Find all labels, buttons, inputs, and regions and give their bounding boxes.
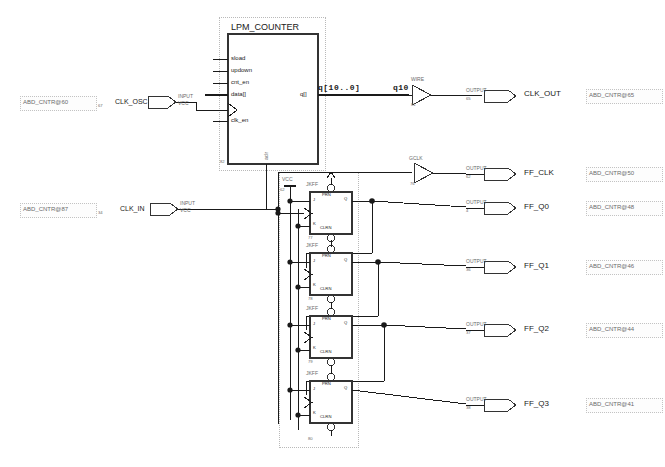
port-default-clk-in: VCC (180, 208, 191, 213)
jkff-pin-q-1: Q (344, 197, 347, 201)
anno-ff-clk: ABD_CNTR@50 (589, 170, 634, 176)
jkff-instance-4: 80 (308, 437, 313, 441)
jkff-instance-1: 77 (308, 236, 313, 240)
counter-pin-sload: sload (231, 55, 245, 61)
instance-clk-osc: 67 (98, 104, 103, 108)
instance-clk-in: 34 (98, 211, 103, 215)
instance-clk-out: 65 (466, 97, 471, 101)
jkff-pin-j-4: J (313, 387, 315, 391)
port-default-clk-osc: VCC (178, 101, 189, 106)
port-type-ff-q0: OUTPUT (466, 200, 487, 205)
anno-ff-q2: ABD_CNTR@44 (589, 326, 634, 332)
counter-block-instance: 82 (220, 160, 225, 164)
jkff-type-2: JKFF (306, 243, 318, 248)
port-type-ff-q2: OUTPUT (466, 322, 487, 327)
signal-ff-q2[interactable]: FF_Q2 (524, 325, 549, 333)
jkff-pin-k-1: K (313, 222, 316, 226)
vcc-label: VCC (282, 177, 293, 182)
jkff-pin-q-4: Q (344, 386, 347, 390)
port-type-clk-osc: INPUT (178, 94, 193, 99)
counter-pin-cnt-en: cnt_en (231, 79, 249, 85)
port-type-ff-clk: OUTPUT (466, 166, 487, 171)
jkff-pin-prn-3: PRN (322, 317, 331, 321)
jkff-type-4: JKFF (306, 371, 318, 376)
anno-clk-out: ABD_CNTR@65 (589, 92, 634, 98)
port-type-ff-q1: OUTPUT (466, 259, 487, 264)
jkff-pin-j-3: J (313, 322, 315, 326)
jkff-pin-clrn-2: CLRN (320, 287, 331, 291)
port-type-ff-q3: OUTPUT (466, 397, 487, 402)
counter-pin-aclr: aclr (264, 152, 269, 160)
jkff-pin-j-2: J (313, 259, 315, 263)
jkff-pin-k-3: K (313, 346, 316, 350)
counter-pin-clk-en: clk_en (231, 117, 248, 123)
wiring-layer (0, 0, 665, 467)
gclk-buffer-instance: 76 (410, 182, 415, 186)
jkff-type-1: JKFF (306, 182, 318, 187)
anno-ff-q3: ABD_CNTR@41 (589, 401, 634, 407)
vcc-instance: 62 (280, 188, 285, 192)
gclk-buffer-type: GCLK (409, 156, 423, 161)
instance-ff-clk: 62 (466, 175, 471, 179)
jkff-pin-clrn-4: CLRN (320, 415, 331, 419)
instance-ff-q0: 4 (466, 209, 468, 213)
bus-node-name: q10 (393, 84, 409, 92)
jkff-instance-2: 78 (308, 297, 313, 301)
jkff-pin-clrn-3: CLRN (320, 350, 331, 354)
jkff-pin-q-3: Q (344, 321, 347, 325)
counter-pin-data: data[] (231, 91, 246, 97)
schematic-sheet: LPM_COUNTER 82 sload updown cnt_en data[… (0, 0, 665, 467)
signal-ff-q0[interactable]: FF_Q0 (524, 203, 549, 211)
anno-clk-osc: ABD_CNTR@60 (23, 99, 68, 105)
jkff-pin-k-2: K (313, 283, 316, 287)
jkff-type-3: JKFF (306, 306, 318, 311)
counter-pin-updown: updown (231, 67, 252, 73)
jkff-pin-prn-1: PRN (322, 193, 331, 197)
signal-ff-q3[interactable]: FF_Q3 (524, 400, 549, 408)
instance-ff-q1: 36 (466, 268, 471, 272)
anno-ff-q0: ABD_CNTR@48 (589, 204, 634, 210)
instance-ff-q3: 38 (466, 406, 471, 410)
jkff-pin-k-4: K (313, 411, 316, 415)
jkff-pin-clrn-1: CLRN (320, 226, 331, 230)
instance-ff-q2: 37 (466, 331, 471, 335)
jkff-pin-j-1: J (313, 198, 315, 202)
signal-ff-clk[interactable]: FF_CLK (524, 169, 554, 177)
anno-ff-q1: ABD_CNTR@46 (589, 263, 634, 269)
signal-clk-in[interactable]: CLK_IN (120, 205, 145, 212)
jkff-instance-3: 79 (308, 360, 313, 364)
jkff-pin-q-2: Q (344, 258, 347, 262)
signal-clk-osc[interactable]: CLK_OSC (115, 98, 148, 105)
port-type-clk-out: OUTPUT (466, 88, 487, 93)
bus-label: q[10..0] (318, 84, 360, 92)
anno-clk-in: ABD_CNTR@87 (23, 206, 68, 212)
counter-block-title: LPM_COUNTER (231, 23, 299, 32)
counter-pin-q: q[] (300, 91, 307, 97)
wire-buffer-instance: 81 (411, 103, 416, 107)
signal-ff-q1[interactable]: FF_Q1 (524, 262, 549, 270)
port-type-clk-in: INPUT (180, 201, 195, 206)
signal-clk-out[interactable]: CLK_OUT (524, 90, 561, 98)
jkff-pin-prn-4: PRN (322, 382, 331, 386)
wire-buffer-type: WIRE (411, 77, 424, 82)
jkff-pin-prn-2: PRN (322, 254, 331, 258)
